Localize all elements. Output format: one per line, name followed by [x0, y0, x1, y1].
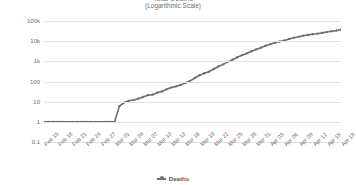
chart-legend: Deaths — [0, 175, 346, 182]
gridline — [44, 102, 341, 103]
data-point — [194, 77, 196, 79]
data-point — [175, 85, 177, 87]
data-point — [307, 34, 309, 36]
data-point — [312, 33, 314, 35]
data-point — [118, 105, 120, 107]
y-axis-tick-label: 0.1 — [32, 139, 40, 145]
data-point — [161, 90, 163, 92]
data-point — [335, 29, 337, 31]
data-point — [241, 54, 243, 56]
data-point — [142, 96, 144, 98]
gridline — [44, 41, 341, 42]
data-point — [321, 32, 323, 34]
data-point — [137, 98, 139, 100]
data-point — [165, 88, 167, 90]
data-point — [316, 33, 318, 35]
data-point — [222, 63, 224, 65]
y-axis-tick-label: 10 — [33, 99, 40, 105]
data-point — [326, 31, 328, 33]
gridline — [44, 82, 341, 83]
y-axis-tick-label: 1k — [34, 58, 40, 64]
x-axis-ticks: Feb 15Feb 18Feb 21Feb 24Feb 27Mar 01Mar … — [44, 143, 341, 173]
data-point — [198, 74, 200, 76]
y-axis-tick-label: 100k — [27, 18, 40, 24]
data-point — [147, 94, 149, 96]
y-axis-ticks: 100k10k1k1001010.1 — [0, 21, 44, 142]
data-point — [213, 68, 215, 70]
gridline — [44, 61, 341, 62]
data-point — [255, 48, 257, 50]
data-point — [260, 47, 262, 49]
data-point — [302, 35, 304, 37]
gridline — [44, 122, 341, 123]
data-point — [246, 52, 248, 54]
data-point — [208, 71, 210, 73]
legend-marker-deaths — [157, 178, 166, 180]
legend-label-deaths: Deaths — [169, 175, 190, 182]
y-axis-tick-label: 10k — [30, 38, 40, 44]
data-point — [297, 36, 299, 38]
data-point — [293, 37, 295, 39]
data-point — [151, 94, 153, 96]
data-point — [250, 50, 252, 52]
chart-subtitle: (Logarithmic Scale) — [0, 2, 346, 9]
y-axis-tick-label: 1 — [37, 119, 40, 125]
data-point — [236, 56, 238, 58]
deaths-line — [44, 30, 341, 122]
data-point — [269, 43, 271, 45]
data-point — [156, 92, 158, 94]
data-point — [330, 30, 332, 32]
data-point — [203, 72, 205, 74]
gridline — [44, 21, 341, 22]
data-point — [180, 84, 182, 86]
data-point — [170, 86, 172, 88]
y-axis-tick-label: 100 — [30, 79, 40, 85]
plot-area — [44, 21, 341, 142]
data-point — [288, 38, 290, 40]
x-axis-tick-label: Apr 18 — [340, 131, 356, 147]
data-point — [264, 45, 266, 47]
data-point — [217, 65, 219, 67]
chart-title: Total Deaths — [0, 0, 346, 1]
